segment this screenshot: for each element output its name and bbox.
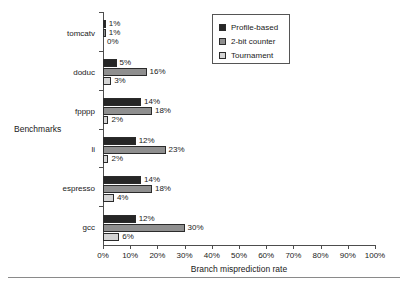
bar-value-label: 0% — [107, 37, 119, 47]
category-label: li — [91, 145, 95, 154]
bar-row: 6% — [103, 233, 375, 241]
bar — [103, 29, 106, 37]
bar-value-label: 23% — [169, 145, 185, 155]
bar-group: gcc12%30%6% — [103, 215, 375, 241]
category-label: fpppp — [75, 107, 95, 116]
bar — [103, 224, 185, 232]
bar-group: fpppp14%18%2% — [103, 98, 375, 124]
bar — [103, 98, 141, 106]
bar-value-label: 6% — [122, 232, 134, 242]
bar-value-label: 12% — [139, 136, 155, 146]
legend-swatch — [219, 38, 226, 45]
bar-row: 23% — [103, 146, 375, 154]
bar — [103, 59, 117, 67]
legend-swatch — [219, 52, 226, 59]
bar-value-label: 18% — [155, 106, 171, 116]
bar-row: 3% — [103, 77, 375, 85]
x-tick — [321, 245, 322, 249]
bar-value-label: 30% — [188, 223, 204, 233]
bar-value-label: 2% — [111, 154, 123, 164]
bottom-divider — [8, 277, 400, 278]
bar — [103, 68, 147, 76]
bar-group: espresso14%18%4% — [103, 176, 375, 202]
bar-row: 12% — [103, 137, 375, 145]
bar-row: 14% — [103, 176, 375, 184]
category-label: tomcatv — [67, 29, 95, 38]
bar-row: 30% — [103, 224, 375, 232]
x-tick-label: 100% — [358, 251, 392, 260]
legend-label: 2-bit counter — [231, 37, 275, 46]
bar — [103, 176, 141, 184]
bar — [103, 20, 106, 28]
y-axis-title: Benchmarks — [14, 124, 61, 134]
legend-label: Tournament — [231, 51, 273, 60]
bar — [103, 137, 136, 145]
bar-group: li12%23%2% — [103, 137, 375, 163]
bar-value-label: 4% — [117, 193, 129, 203]
bar — [103, 155, 108, 163]
legend-swatch — [219, 24, 226, 31]
x-tick — [130, 245, 131, 249]
bar-row: 2% — [103, 155, 375, 163]
bar-row: 2% — [103, 116, 375, 124]
bar-row: 18% — [103, 185, 375, 193]
legend-item: 2-bit counter — [219, 34, 289, 48]
category-label: espresso — [63, 184, 95, 193]
bar — [103, 194, 114, 202]
x-tick — [348, 245, 349, 249]
bar-value-label: 5% — [120, 58, 132, 68]
legend-label: Profile-based — [231, 23, 278, 32]
bar-value-label: 16% — [150, 67, 166, 77]
bar-value-label: 12% — [139, 214, 155, 224]
legend-item: Profile-based — [219, 20, 289, 34]
bar-row: 18% — [103, 107, 375, 115]
bar — [103, 107, 152, 115]
bar — [103, 77, 111, 85]
x-tick — [157, 245, 158, 249]
x-tick — [212, 245, 213, 249]
bar-row: 12% — [103, 215, 375, 223]
bar-value-label: 18% — [155, 184, 171, 194]
x-tick — [375, 245, 376, 249]
bar — [103, 146, 166, 154]
category-label: doduc — [73, 68, 95, 77]
x-tick — [266, 245, 267, 249]
bar-value-label: 2% — [111, 115, 123, 125]
x-tick — [293, 245, 294, 249]
chart-legend: Profile-based2-bit counterTournament — [212, 14, 290, 64]
category-label: gcc — [83, 223, 95, 232]
x-tick — [239, 245, 240, 249]
x-axis-title: Branch misprediction rate — [103, 264, 375, 274]
bar-row: 16% — [103, 68, 375, 76]
x-tick — [185, 245, 186, 249]
bar-value-label: 3% — [114, 76, 126, 86]
bar — [103, 116, 108, 124]
legend-item: Tournament — [219, 48, 289, 62]
bar-row: 4% — [103, 194, 375, 202]
bar — [103, 233, 119, 241]
bar-row: 14% — [103, 98, 375, 106]
bar — [103, 185, 152, 193]
x-tick — [103, 245, 104, 249]
bar — [103, 215, 136, 223]
branch-misprediction-chart: 0%10%20%30%40%50%60%70%80%90%100% Benchm… — [0, 0, 408, 292]
